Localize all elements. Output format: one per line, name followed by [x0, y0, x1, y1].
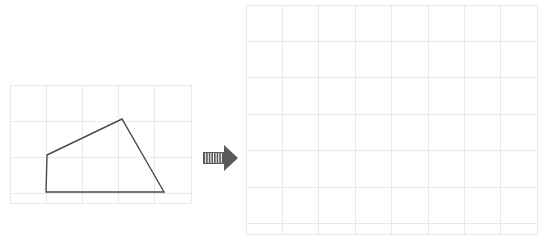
diagram-svg: [0, 0, 546, 244]
worksheet-canvas: [0, 0, 546, 244]
arrow-stripe-group: [206, 153, 222, 163]
